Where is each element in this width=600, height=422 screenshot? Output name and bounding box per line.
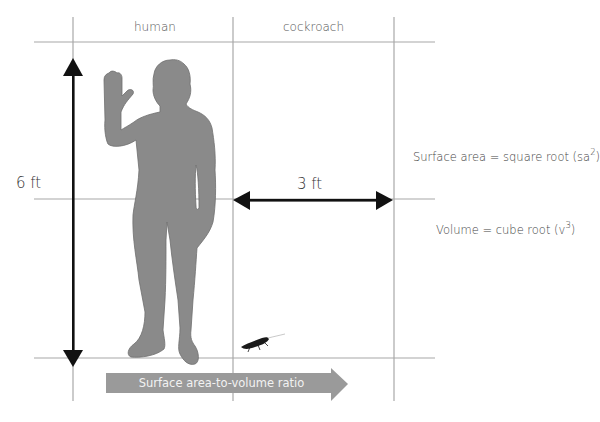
cockroach-antenna [268,334,285,338]
ratio-arrow-label: Surface area-to-volume ratio [106,373,331,393]
arrow-right-icon [376,191,393,210]
height-arrow-shaft [72,72,75,354]
surface-area-formula-close: ) [596,150,600,164]
height-arrow [63,58,83,367]
human-silhouette [104,60,216,365]
column-label-cockroach: cockroach [283,20,344,34]
cockroach-leg [264,342,268,346]
volume-formula: Volume = cube root (v3) [436,221,575,237]
arrow-up-icon [63,58,83,76]
column-label-human: human [134,20,176,34]
volume-exponent: 3 [565,220,570,230]
cockroach-leg [258,345,260,350]
grid-lines [34,17,435,401]
volume-formula-text: Volume = cube root (v [436,223,565,237]
width-arrow [233,191,393,210]
ratio-arrow-head-icon [331,368,348,401]
surface-area-formula: Surface area = square root (sa2) [413,148,600,164]
cockroach-silhouette [241,334,285,352]
arrow-left-icon [233,191,250,210]
volume-formula-close: ) [571,223,576,237]
surface-area-exponent: 2 [590,147,595,157]
surface-area-formula-text: Surface area = square root (sa [413,150,590,164]
height-dimension-label: 6 ft [16,174,41,192]
width-arrow-shaft [246,199,382,202]
width-dimension-label: 3 ft [297,175,322,193]
